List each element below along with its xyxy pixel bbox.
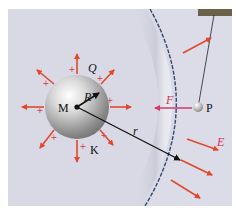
svg-text:+: + (80, 141, 86, 152)
label-k: K (90, 143, 99, 157)
label-r-distance: r (133, 124, 138, 138)
svg-text:+: + (37, 105, 43, 116)
label-p: P (206, 101, 213, 115)
svg-text:+: + (51, 132, 57, 143)
svg-text:+: + (43, 78, 49, 89)
svg-text:+: + (69, 64, 75, 75)
svg-text:+: + (97, 73, 103, 84)
label-f: F (165, 93, 174, 107)
label-m: M (58, 101, 69, 115)
label-q: Q (88, 61, 97, 75)
electric-field-diagram: + + + + + + + + M Q R r F P E K (0, 0, 236, 212)
hanger-bar (198, 9, 232, 16)
label-e: E (216, 135, 225, 149)
test-charge (193, 102, 203, 112)
svg-text:+: + (101, 130, 107, 141)
label-r-radius: R (83, 90, 92, 104)
